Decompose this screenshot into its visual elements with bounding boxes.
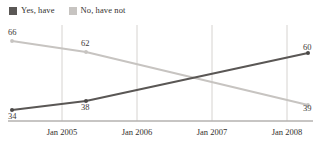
plot-area	[0, 0, 322, 143]
series-point-no-have-not	[84, 50, 88, 54]
series-line-no-have-not	[12, 41, 308, 105]
data-label-no-39: 39	[303, 104, 312, 113]
data-label-no-66: 66	[8, 28, 17, 37]
x-tick-label-jan-2007: Jan 2007	[197, 128, 227, 137]
data-label-no-62: 62	[81, 39, 90, 48]
data-label-yes-34: 34	[8, 112, 17, 121]
data-label-yes-60: 60	[303, 43, 312, 52]
line-chart: Yes, have No, have not 66 62 39 34	[0, 0, 322, 143]
x-tick-label-jan-2008: Jan 2008	[272, 128, 302, 137]
x-tick-label-jan-2006: Jan 2006	[122, 128, 152, 137]
series-point-no-have-not	[10, 39, 14, 43]
x-tick-label-jan-2005: Jan 2005	[47, 128, 77, 137]
data-label-yes-38: 38	[81, 103, 90, 112]
series-line-yes-have	[12, 53, 308, 110]
